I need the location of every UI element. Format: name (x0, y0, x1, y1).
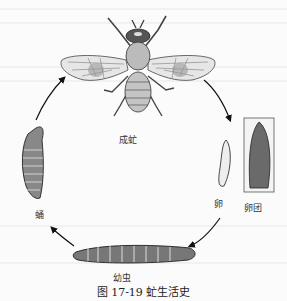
life-cycle-diagram (0, 0, 287, 301)
arrow-pupa-to-adult (36, 78, 64, 120)
label-egg: 卵 (214, 197, 223, 210)
arrow-egg-to-larva (190, 218, 220, 246)
arrow-adult-to-egg (204, 80, 230, 120)
figure-caption: 图 17-19 虻生活史 (0, 283, 287, 299)
label-egg-mass: 卵团 (244, 201, 262, 214)
larva-illustration (73, 245, 195, 263)
pupa-illustration (22, 127, 43, 199)
adult-horsefly-illustration (61, 16, 215, 116)
label-pupa: 蛹 (35, 208, 44, 221)
arrow-larva-to-pupa (52, 228, 74, 246)
label-adult: 成虻 (119, 133, 137, 146)
egg-mass-illustration (244, 118, 274, 192)
egg-illustration (219, 140, 230, 186)
